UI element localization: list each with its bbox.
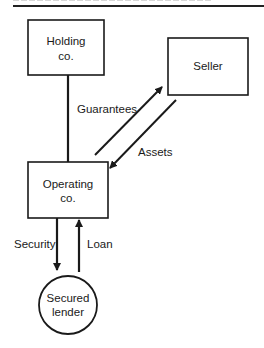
seller-label: Seller	[193, 60, 223, 72]
holding-label-line1: Holding	[47, 35, 86, 47]
loan-label: Loan	[87, 238, 113, 250]
node-secured-lender: Secured lender	[39, 276, 97, 334]
operating-label-line2: co.	[60, 192, 75, 204]
edge-security: Security	[14, 218, 57, 270]
node-operating-co: Operating co.	[28, 162, 108, 218]
edge-operating-to-seller	[95, 87, 162, 155]
edge-loan: Loan	[79, 220, 113, 272]
node-seller: Seller	[168, 38, 248, 95]
diagram-canvas: Holding co. Seller Guarantees Assets Ope…	[0, 0, 264, 348]
edge-guarantees: Guarantees	[68, 75, 137, 162]
security-label: Security	[14, 238, 56, 250]
operating-label-line1: Operating	[43, 178, 94, 190]
guarantees-label: Guarantees	[77, 103, 137, 115]
holding-label-line2: co.	[58, 50, 73, 62]
node-holding-co: Holding co.	[28, 20, 104, 75]
lender-label-line2: lender	[52, 306, 84, 318]
assets-label: Assets	[138, 146, 173, 158]
lender-label-line1: Secured	[47, 292, 90, 304]
